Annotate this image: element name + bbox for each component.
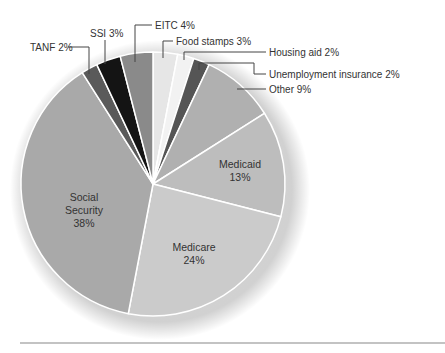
label-tanf: TANF 2% — [30, 42, 73, 53]
label-medicaid-pct: 13% — [229, 171, 250, 183]
label-unemployment: Unemployment insurance 2% — [269, 69, 400, 80]
label-medicare-pct: 24% — [183, 254, 204, 266]
label-ss-name-1: Social — [70, 191, 99, 203]
pie-slices — [21, 52, 285, 316]
label-medicare-name: Medicare — [172, 241, 215, 253]
label-medicaid-name: Medicaid — [219, 158, 261, 170]
label-ss-name-2: Security — [65, 204, 104, 216]
label-other: Other 9% — [269, 84, 311, 95]
label-food-stamps: Food stamps 3% — [176, 36, 251, 47]
label-housing-aid: Housing aid 2% — [269, 47, 339, 58]
label-ss-pct: 38% — [73, 217, 94, 229]
label-eitc: EITC 4% — [155, 20, 195, 31]
pie-chart: TANF 2% SSI 3% EITC 4% Food stamps 3% Ho… — [0, 0, 445, 353]
label-ssi: SSI 3% — [90, 28, 123, 39]
